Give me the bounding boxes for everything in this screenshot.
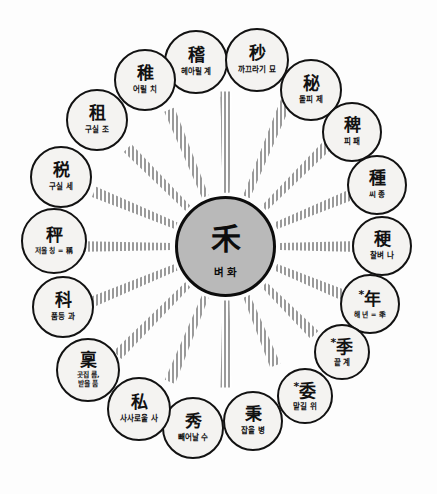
node-gwa[interactable]: 科품등 과	[32, 276, 94, 338]
node-jong[interactable]: 種씨 종	[347, 155, 407, 215]
center-node-hwa[interactable]: 禾 벼 화	[175, 196, 276, 297]
node-reum-ko: 곳집 름, 받을 품	[77, 371, 100, 388]
node-nyeon-marker: *	[359, 288, 365, 301]
node-chi[interactable]: 稚어릴 치	[114, 49, 176, 111]
node-byeong-han: 秉	[245, 406, 262, 424]
node-wi[interactable]: *委맡길 위	[277, 368, 333, 424]
node-jong-ko: 씨 종	[369, 190, 386, 199]
spoke-node-ching	[124, 144, 191, 211]
node-je-ko: 돌피 제	[299, 95, 323, 104]
node-myo[interactable]: 秒까끄라기 묘	[225, 28, 289, 92]
spoke-node-nyeon	[262, 282, 319, 339]
node-gye2-han: *季	[331, 337, 354, 357]
spoke-node-pae	[275, 188, 358, 229]
node-gye2-ko: 끝 계	[334, 358, 351, 367]
spoke-node-su	[114, 282, 191, 359]
spoke-node-gwa	[92, 187, 178, 229]
node-se-ko: 구실 세	[49, 182, 73, 191]
node-na[interactable]: 稉찰벼 나	[352, 216, 412, 276]
node-se[interactable]: 税구실 세	[30, 146, 92, 208]
node-byeong[interactable]: 秉잡을 병	[223, 391, 283, 451]
node-wi-ko: 맡길 위	[293, 402, 317, 411]
node-byeong-ko: 잡을 병	[241, 426, 265, 435]
node-na-ko: 찰벼 나	[370, 251, 394, 260]
node-su[interactable]: 秀빼어날 수	[162, 397, 224, 459]
node-ching-ko: 저울 칭 = 稱	[35, 247, 73, 255]
node-nyeon-ko: 해 년 = 秊	[354, 311, 386, 319]
node-jo[interactable]: 租구실 조	[66, 89, 128, 151]
node-jong-han: 種	[369, 170, 386, 188]
node-gye-ko: 헤아릴 계	[181, 67, 212, 76]
node-gwa-ko: 품등 과	[51, 312, 75, 321]
center-node-han: 禾	[211, 214, 241, 258]
node-su-han: 秀	[185, 413, 202, 431]
spoke-node-gye2	[243, 295, 280, 368]
node-gye2-marker: *	[331, 336, 337, 349]
node-nyeon-han: *年	[359, 289, 382, 309]
node-su-ko: 빼어날 수	[178, 433, 209, 442]
node-na-han: 稉	[374, 231, 391, 249]
spoke-node-na	[275, 264, 345, 300]
node-sa[interactable]: 私사사로울 사	[107, 377, 171, 441]
spoke-node-jo	[221, 97, 232, 193]
radial-character-diagram: 禾 벼 화 稽헤아릴 계秒까끄라기 묘秘돌피 제稗피 패種씨 종稉찰벼 나*年해…	[0, 0, 437, 494]
node-ching-han: 秤	[46, 227, 63, 245]
spoke-node-wi	[221, 301, 232, 388]
node-ching[interactable]: 秤저울 칭 = 稱	[21, 208, 87, 274]
spoke-node-je	[262, 139, 334, 211]
node-gwa-han: 科	[55, 292, 72, 310]
spoke-node-reum	[73, 241, 172, 252]
center-node-ko: 벼 화	[214, 264, 238, 279]
node-wi-han: *委	[294, 381, 317, 401]
node-wi-marker: *	[294, 380, 300, 393]
spoke-node-byeong	[165, 295, 209, 384]
node-gye-han: 稽	[188, 47, 205, 65]
node-sa-han: 私	[131, 394, 148, 412]
node-reum-han: 稟	[80, 352, 97, 370]
node-pae-ko: 피 패	[344, 137, 361, 146]
node-myo-ko: 까끄라기 묘	[238, 65, 276, 74]
node-chi-han: 稚	[137, 65, 154, 83]
node-reum[interactable]: 稟곳집 름, 받을 품	[56, 338, 120, 402]
node-pae[interactable]: 稗피 패	[322, 102, 382, 162]
node-jo-han: 租	[89, 105, 106, 123]
node-je-han: 秘	[303, 75, 320, 93]
node-se-han: 税	[53, 162, 70, 180]
node-gye2[interactable]: *季끝 계	[314, 324, 370, 380]
spoke-node-jong	[280, 241, 359, 252]
spoke-node-se	[164, 108, 208, 198]
node-jo-ko: 구실 조	[85, 125, 109, 134]
node-pae-han: 稗	[344, 117, 361, 135]
spoke-node-sa	[83, 264, 177, 310]
node-myo-han: 秒	[249, 45, 266, 63]
node-sa-ko: 사사로울 사	[120, 414, 158, 423]
node-chi-ko: 어릴 치	[133, 85, 157, 94]
